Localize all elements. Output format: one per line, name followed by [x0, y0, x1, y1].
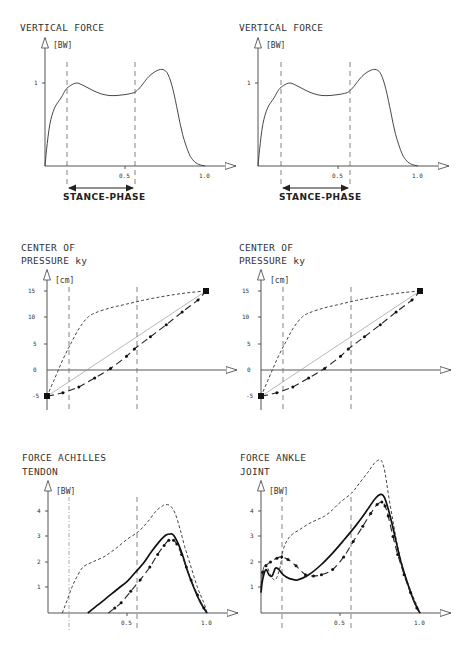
plot-area	[45, 69, 205, 166]
chart-title-line2: PRESSURE ky	[239, 255, 305, 266]
y-tick-label: 0	[33, 366, 37, 373]
series-dot-marker	[287, 558, 290, 561]
chart-center-of-pressure-left: CENTER OF PRESSURE ky [cm] 15 10 5 0 -5	[21, 242, 237, 410]
series-solid-line	[258, 69, 418, 166]
y-unit-label: [BW]	[56, 487, 75, 496]
series-dot-marker	[352, 540, 355, 543]
series-dot-marker	[190, 578, 193, 581]
chart-force-ankle-joint: FORCE ANKLE JOINT [BW] 1 2 3 4 0.5 1.0	[240, 452, 451, 632]
series-dot-marker	[196, 594, 199, 597]
plot-area	[62, 505, 207, 613]
y-unit-label: [BW]	[269, 487, 288, 496]
stance-phase-label: STANCE-PHASE	[279, 192, 362, 202]
x-tick-label: 0.5	[334, 619, 345, 626]
chart-title-line2: TENDON	[22, 466, 58, 477]
series-dot-marker	[347, 347, 350, 350]
series-dot-marker	[180, 553, 183, 556]
series-dot-marker	[395, 311, 398, 314]
series-dot-marker	[323, 367, 326, 370]
series-dot-marker	[113, 606, 116, 609]
chart-title-line1: CENTER OF	[239, 242, 293, 253]
y-tick-label: 0	[247, 366, 251, 373]
series-dot-marker	[387, 515, 390, 518]
series-dot-marker	[339, 355, 342, 358]
plot-area	[47, 291, 206, 397]
series-dot-marker	[304, 573, 307, 576]
end-point-marker	[203, 288, 209, 294]
series-dot-marker	[320, 573, 323, 576]
chart-title-line1: CENTER OF	[21, 242, 75, 253]
series-dot-marker	[129, 590, 132, 593]
series-dot-marker	[202, 606, 205, 609]
series-dot-marker	[181, 311, 184, 314]
series-dashdot-line	[108, 540, 207, 613]
y-tick-label: 3	[250, 532, 254, 539]
series-dot-marker	[175, 543, 178, 546]
series-dot-marker	[93, 376, 96, 379]
series-dot-marker	[167, 539, 170, 542]
stance-phase-label: STANCE-PHASE	[63, 192, 146, 202]
series-dot-marker	[331, 568, 334, 571]
series-dot-marker	[403, 573, 406, 576]
series-dot-marker	[379, 323, 382, 326]
y-tick-label: 1	[247, 79, 251, 86]
x-tick-label: 1.0	[414, 619, 425, 626]
plot-area	[258, 69, 418, 166]
y-tick-label: 2	[250, 558, 254, 565]
series-dot-marker	[361, 525, 364, 528]
y-tick-label: 1	[37, 583, 41, 590]
x-tick-label: 1.0	[199, 172, 210, 179]
series-dot-marker	[77, 385, 80, 388]
start-point-marker	[44, 393, 50, 399]
series-dashdot-line	[261, 502, 420, 613]
series-dot-marker	[120, 601, 123, 604]
series-dot-marker	[275, 391, 278, 394]
y-tick-label: -5	[246, 392, 254, 399]
series-dot-marker	[264, 564, 267, 567]
series-dot-marker	[307, 376, 310, 379]
series-bold-line	[261, 494, 420, 613]
x-tick-label: 0.5	[119, 172, 130, 179]
y-tick-label: 15	[28, 287, 36, 294]
series-dot-marker	[139, 578, 142, 581]
series-dot-marker	[376, 503, 379, 506]
x-tick-label: 1.0	[201, 619, 212, 626]
y-tick-label: 10	[242, 313, 250, 320]
y-tick-label: -5	[32, 392, 40, 399]
series-dot-marker	[384, 504, 387, 507]
series-dot-marker	[197, 298, 200, 301]
series-dot-marker	[380, 501, 383, 504]
y-unit-label: [BW]	[53, 41, 72, 50]
plot-area	[261, 460, 420, 613]
y-ticks: 15 10 5 0 -5	[28, 287, 47, 399]
series-dot-marker	[396, 553, 399, 556]
y-ticks: 15 10 5 0 -5	[242, 287, 261, 399]
series-dot-marker	[342, 555, 345, 558]
x-tick-label: 0.5	[332, 172, 343, 179]
series-dashed-line	[261, 460, 420, 613]
series-solid-line	[45, 69, 205, 166]
series-dot-marker	[109, 367, 112, 370]
y-unit-label: [BW]	[266, 41, 285, 50]
series-dot-marker	[280, 555, 283, 558]
chart-title-line2: JOINT	[240, 466, 270, 477]
y-tick-label: 4	[37, 507, 41, 514]
series-dot-marker	[369, 512, 372, 515]
end-point-marker	[417, 288, 423, 294]
series-dot-marker	[165, 323, 168, 326]
plot-area	[261, 291, 420, 397]
chart-vertical-force-right: VERTICAL FORCE [BW] 1 0.5 1.0 STANCE-PHA…	[239, 22, 449, 202]
series-dot-marker	[261, 571, 264, 574]
chart-title-line1: FORCE ACHILLES	[22, 452, 106, 463]
series-dot-marker	[148, 566, 151, 569]
series-dot-marker	[409, 591, 412, 594]
y-ticks: 1 2 3 4	[37, 507, 48, 590]
series-dot-marker	[149, 335, 152, 338]
chart-vertical-force-left: VERTICAL FORCE [BW] 1 0.5 1.0 STANCE-PHA…	[20, 22, 236, 202]
series-dot-marker	[411, 298, 414, 301]
series-dot-marker	[363, 335, 366, 338]
y-tick-label: 4	[250, 507, 254, 514]
series-dot-marker	[125, 355, 128, 358]
series-dot-marker	[172, 539, 175, 542]
figure-canvas: VERTICAL FORCE [BW] 1 0.5 1.0 STANCE-PHA…	[0, 0, 473, 652]
